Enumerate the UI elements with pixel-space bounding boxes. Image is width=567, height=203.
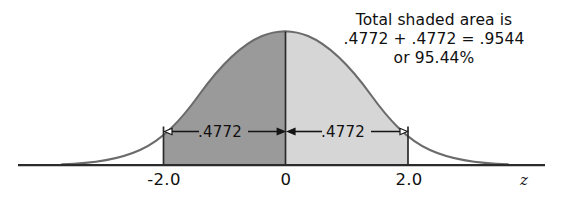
annotation-line-3: or 95.44% — [318, 49, 550, 68]
area-label-right: .4772 — [321, 123, 365, 141]
shaded-area-left — [62, 31, 285, 165]
axis-variable-label: z — [520, 171, 528, 189]
annotation-text-block: Total shaded area is .4772 + .4772 = .95… — [318, 11, 550, 68]
tick-label-minus-2: -2.0 — [128, 170, 200, 189]
normal-distribution-figure: Total shaded area is .4772 + .4772 = .95… — [0, 0, 567, 203]
annotation-line-1: Total shaded area is — [318, 11, 550, 30]
area-label-left: .4772 — [198, 123, 242, 141]
tick-label-plus-2: 2.0 — [378, 170, 440, 189]
tick-label-zero: 0 — [265, 170, 307, 189]
annotation-line-2: .4772 + .4772 = .9544 — [318, 30, 550, 49]
